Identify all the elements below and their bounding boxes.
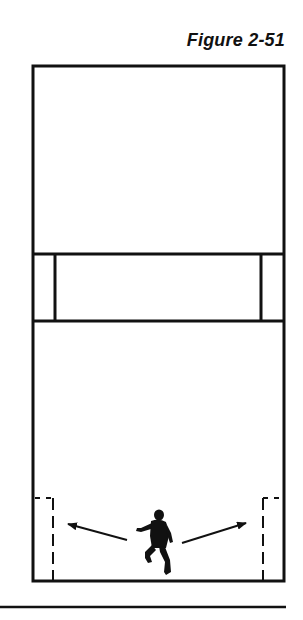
court-outline <box>33 66 284 581</box>
court-diagram <box>0 0 303 620</box>
dashed-box-left <box>35 498 53 580</box>
dashed-box-right <box>263 498 282 580</box>
player-silhouette-icon <box>136 510 173 576</box>
arrow-left-icon <box>68 524 127 540</box>
arrow-right-icon <box>182 523 246 543</box>
